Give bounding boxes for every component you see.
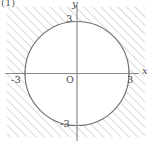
- figure-canvas: [0, 0, 155, 144]
- y-axis-label: y: [72, 0, 78, 9]
- hatched-region: [7, 7, 145, 137]
- circle-region-figure: (1) y x O -3 3 3 -3: [0, 0, 155, 144]
- tick-label-y-positive: 3: [66, 14, 72, 24]
- part-number-label: (1): [1, 0, 15, 8]
- tick-label-x-positive: 3: [127, 75, 133, 85]
- origin-label: O: [66, 75, 74, 85]
- x-axis-label: x: [142, 66, 148, 76]
- tick-label-x-negative: -3: [11, 75, 21, 85]
- tick-label-y-negative: -3: [60, 119, 70, 129]
